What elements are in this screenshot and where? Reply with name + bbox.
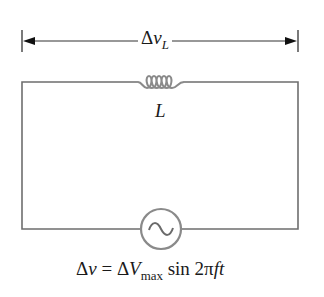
eq-function: sin 2π bbox=[163, 258, 214, 279]
inductor-voltage-label: ΔvL bbox=[138, 27, 172, 56]
voltage-var: v bbox=[153, 27, 161, 48]
inductor-label: L bbox=[155, 100, 166, 122]
voltage-subscript: L bbox=[162, 37, 169, 52]
eq-argument: ft bbox=[214, 258, 225, 279]
arrowhead-left-icon bbox=[23, 37, 35, 45]
eq-rhs-delta: Δ bbox=[117, 258, 129, 279]
eq-rhs-subscript: max bbox=[141, 268, 163, 283]
arrowhead-right-icon bbox=[285, 37, 297, 45]
inductor-coil-icon bbox=[138, 76, 184, 88]
eq-lhs-var: v bbox=[88, 258, 96, 279]
eq-equals: = bbox=[97, 258, 117, 279]
source-equation: Δv = ΔVmax sin 2πft bbox=[76, 257, 224, 288]
eq-lhs-delta: Δ bbox=[76, 258, 88, 279]
delta-symbol: Δ bbox=[141, 27, 153, 48]
wire-left bbox=[22, 82, 141, 229]
eq-rhs-var: V bbox=[129, 258, 141, 279]
ac-source bbox=[141, 209, 181, 249]
wire-right bbox=[181, 82, 298, 229]
